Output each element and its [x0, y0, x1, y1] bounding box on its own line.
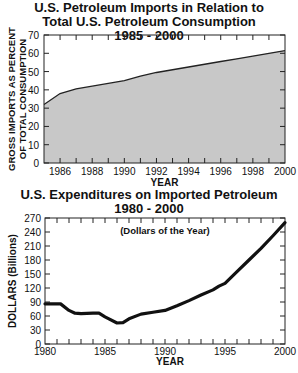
y-tick-label: 90 [30, 297, 42, 308]
y-tick-label: 240 [24, 227, 41, 238]
y-tick-label: 270 [24, 213, 41, 224]
y-tick-label: 60 [30, 311, 42, 322]
y-axis-label: DOLLARS (Billions) [7, 234, 18, 328]
y-tick-label: 30 [30, 325, 42, 336]
plot-frame [45, 218, 285, 344]
y-tick-label: 180 [24, 255, 41, 266]
y-tick-label: 210 [24, 241, 41, 252]
y-tick-label: 150 [24, 269, 41, 280]
x-tick-label: 2000 [274, 346, 297, 357]
expenditure-line [45, 223, 285, 323]
x-tick-label: 1995 [214, 346, 237, 357]
y-tick-label: 120 [24, 283, 41, 294]
x-tick-label: 1985 [94, 346, 117, 357]
x-axis-label: YEAR [156, 356, 185, 367]
y-tick-label: 0 [35, 339, 41, 350]
chart2-plot: 1980198519901995200003060901201501802102… [0, 0, 298, 373]
chart2-subtitle: (Dollars of the Year) [120, 225, 210, 236]
